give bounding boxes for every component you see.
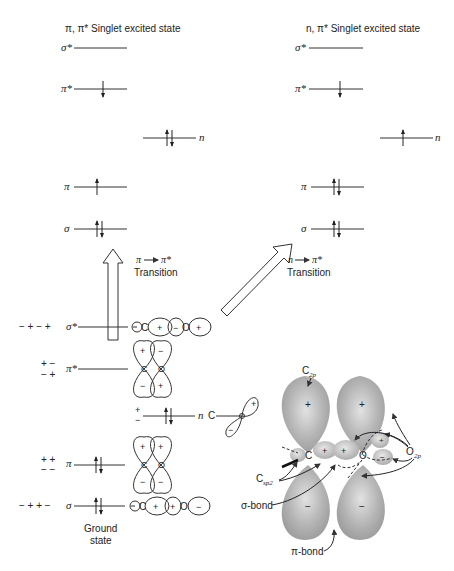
svg-text:Transition: Transition xyxy=(134,267,178,278)
left-sigma-label: σ xyxy=(64,222,70,234)
svg-text:O: O xyxy=(158,364,165,374)
n-pi-star-transition-label: n π* Transition xyxy=(287,254,331,278)
svg-text:+: + xyxy=(158,381,163,391)
svg-text:+: + xyxy=(341,446,346,456)
svg-text:Transition: Transition xyxy=(287,267,331,278)
svg-text:−: − xyxy=(158,477,163,487)
right-pi-label: π xyxy=(301,180,307,192)
svg-text:π*: π* xyxy=(161,254,171,265)
svg-text:−: − xyxy=(140,381,145,391)
n-phase-top: + xyxy=(135,405,140,415)
svg-text:+: + xyxy=(322,446,327,456)
svg-text:+: + xyxy=(251,399,256,409)
n-orbital: C + − xyxy=(208,398,258,437)
svg-text:+: + xyxy=(359,399,365,410)
right-n-label: n xyxy=(435,131,441,143)
ground-pi-star-label: π* xyxy=(66,362,78,374)
svg-text:+: + xyxy=(170,502,175,512)
n-pi-star-transition-arrow xyxy=(221,244,292,316)
svg-text:+: + xyxy=(305,399,311,410)
svg-text:C: C xyxy=(141,364,148,374)
svg-text:−: − xyxy=(380,453,385,462)
svg-text:+: + xyxy=(379,436,384,445)
sigma-phase-signs: − + + − xyxy=(19,500,51,511)
left-pi-star-label: π* xyxy=(61,82,73,94)
ground-pi-label: π xyxy=(66,457,72,469)
svg-text:−: − xyxy=(359,501,365,512)
pi-star-phase-top: + − xyxy=(41,358,56,369)
svg-text:2p: 2p xyxy=(309,371,317,379)
sigma-orbital: C + + O − xyxy=(130,497,210,515)
pi-pi-star-transition-arrow xyxy=(103,249,123,340)
svg-text:+: + xyxy=(140,346,145,356)
pi-pi-star-excited-state: π, π* Singlet excited state σ* π* n π σ xyxy=(61,23,205,238)
svg-text:+: + xyxy=(196,323,201,333)
svg-text:−: − xyxy=(140,477,145,487)
sigma-star-orbital: C + − O + xyxy=(132,318,211,336)
svg-text:+: + xyxy=(140,442,145,452)
right-sigma-label: σ xyxy=(301,222,307,234)
pi-pi-star-transition-label: π π* Transition xyxy=(134,254,178,278)
left-sigma-star-label: σ* xyxy=(61,41,72,53)
right-sigma-star-label: σ* xyxy=(295,41,306,53)
right-pi-star-label: π* xyxy=(295,82,307,94)
sigma-star-phase-signs: − + − + xyxy=(19,321,51,332)
ground-sigma-label: σ xyxy=(66,499,72,511)
left-state-title: π, π* Singlet excited state xyxy=(65,23,181,34)
svg-text:C: C xyxy=(141,460,148,470)
svg-text:−: − xyxy=(173,323,178,333)
ground-sigma-star-label: σ* xyxy=(66,320,77,332)
svg-text:+: + xyxy=(158,442,163,452)
pi-star-orbital: + − − + C O xyxy=(134,341,172,398)
svg-text:−: − xyxy=(158,346,163,356)
n-pi-star-excited-state: n, π* Singlet excited state σ* π* n π σ xyxy=(295,23,441,238)
svg-text:−: − xyxy=(305,501,311,512)
right-state-title: n, π* Singlet excited state xyxy=(306,23,421,34)
ground-state-label-1: Ground xyxy=(84,523,117,534)
left-pi-label: π xyxy=(64,180,70,192)
pi-star-phase-bottom: − + xyxy=(41,369,56,380)
svg-text:C: C xyxy=(141,322,148,333)
ground-state: − + − + σ* C + − O + + − − + π* + − − xyxy=(19,318,258,546)
mo-diagram: π, π* Singlet excited state σ* π* n π σ xyxy=(0,0,454,571)
svg-text:σ-bond: σ-bond xyxy=(241,500,273,511)
n-phase-bottom: − xyxy=(135,415,140,425)
svg-text:2p: 2p xyxy=(414,452,422,460)
svg-text:−: − xyxy=(228,425,233,435)
pi-phase-bottom: − − xyxy=(41,464,56,475)
svg-text:O: O xyxy=(180,501,188,512)
ground-n-label: n xyxy=(198,409,204,421)
ground-state-label-2: state xyxy=(90,535,112,546)
svg-text:π*: π* xyxy=(312,254,322,265)
svg-text:C: C xyxy=(208,410,215,421)
svg-text:+: + xyxy=(153,502,158,512)
carbonyl-orbital-picture: + + − − + + + − C O C 2p C sp2 σ-bond xyxy=(241,365,422,557)
svg-text:−: − xyxy=(196,502,201,512)
svg-text:π-bond: π-bond xyxy=(291,546,323,557)
svg-text:π: π xyxy=(136,254,142,265)
carbon-atom: C xyxy=(305,450,312,461)
svg-text:O: O xyxy=(158,460,165,470)
svg-text:+: + xyxy=(157,323,162,333)
svg-text:O: O xyxy=(406,446,414,457)
pi-orbital: + + − − C O xyxy=(134,437,172,494)
left-n-label: n xyxy=(199,131,205,143)
svg-text:n: n xyxy=(288,254,293,265)
svg-text:sp2: sp2 xyxy=(263,479,273,487)
